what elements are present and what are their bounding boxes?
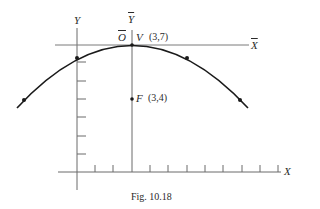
focus-point — [130, 97, 134, 101]
focus-coords: (3,4) — [148, 93, 167, 103]
point-right-upper — [185, 56, 189, 60]
y-ticks — [77, 62, 86, 154]
vertex-point — [130, 43, 134, 47]
xbar-axis-label: X — [251, 40, 258, 51]
point-y-intercept — [75, 56, 79, 60]
x-ticks — [95, 165, 278, 172]
vertex-label: V — [136, 32, 143, 43]
ybar-axis-label: Y — [128, 14, 134, 25]
x-axis-label: X — [284, 166, 291, 177]
y-axis-label: Y — [74, 15, 80, 26]
focus-label: F — [136, 93, 143, 104]
figure-caption: Fig. 10.18 — [131, 192, 172, 202]
point-left — [22, 98, 26, 102]
point-right — [238, 98, 242, 102]
vertex-coords: (3,7) — [149, 32, 168, 42]
origin-bar-label: O — [118, 32, 126, 43]
